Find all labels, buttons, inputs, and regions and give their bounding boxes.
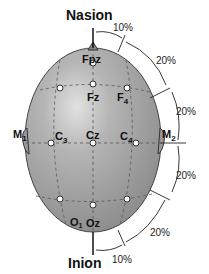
pct-top: 10%: [113, 22, 133, 33]
pct-bottom: 10%: [112, 254, 132, 265]
eeg-10-20-diagram: Nasion Inion Fpz Fz F4 C3 Cz C4 O1 Oz M1…: [0, 0, 209, 274]
pct-mid-lower: 20%: [176, 170, 196, 181]
electrode-fpz: Fpz: [82, 53, 101, 65]
pct-upper-right: 20%: [156, 55, 176, 66]
electrode-fz: Fz: [87, 91, 100, 103]
nasion-label: Nasion: [66, 7, 113, 23]
electrode-oz: Oz: [86, 217, 101, 229]
pct-mid-upper: 20%: [176, 106, 196, 117]
pct-lower-right: 20%: [150, 227, 170, 238]
inion-label: Inion: [68, 255, 101, 271]
electrode-cz: Cz: [86, 129, 100, 141]
